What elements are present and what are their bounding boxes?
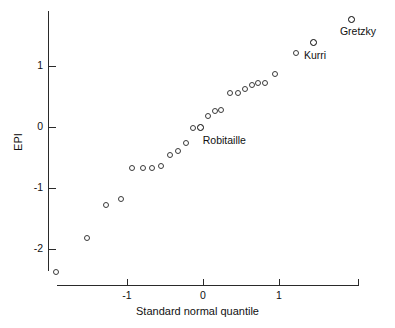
y-tick-mark (49, 66, 56, 67)
y-tick-label: -2 (21, 242, 43, 254)
data-point (140, 165, 146, 171)
x-tick-mark (203, 279, 204, 286)
data-point (205, 113, 211, 119)
data-point (183, 140, 189, 146)
data-point (84, 235, 90, 241)
point-label-robitaille: Robitaille (203, 134, 246, 146)
point-label-kurri: Kurri (304, 49, 326, 61)
y-tick-label: 1 (21, 59, 43, 71)
y-axis-line (48, 11, 49, 271)
data-point (235, 90, 241, 96)
y-tick-label: -1 (21, 181, 43, 193)
data-point-gretzky (348, 16, 355, 23)
x-tick-label: -1 (115, 289, 139, 301)
data-point (293, 50, 299, 56)
qq-plot-figure: -2-101 -101 GretzkyKurriRobitaille Stand… (0, 0, 395, 328)
data-point (118, 196, 124, 202)
x-tick-label: 1 (267, 289, 291, 301)
data-point (149, 165, 155, 171)
x-axis-title: Standard normal quantile (0, 305, 395, 317)
data-point (249, 82, 255, 88)
data-point-robitaille (197, 124, 204, 131)
data-point (103, 202, 109, 208)
y-tick-mark (49, 249, 56, 250)
x-axis-end-tick (358, 279, 359, 286)
data-point (272, 71, 278, 77)
data-point (158, 163, 164, 169)
data-point (190, 125, 196, 131)
data-point (175, 148, 181, 154)
data-point (167, 152, 173, 158)
y-tick-label: 0 (21, 120, 43, 132)
x-tick-mark (127, 279, 128, 286)
data-point (262, 80, 268, 86)
data-point-kurri (310, 39, 317, 46)
point-label-gretzky: Gretzky (340, 25, 376, 37)
data-point (255, 80, 261, 86)
x-tick-mark (279, 279, 280, 286)
data-point (129, 165, 135, 171)
y-tick-mark (49, 127, 56, 128)
y-tick-mark (49, 188, 56, 189)
data-point (53, 269, 59, 275)
data-point (227, 90, 233, 96)
x-tick-label: 0 (191, 289, 215, 301)
x-axis-line (57, 285, 359, 286)
data-point (218, 107, 224, 113)
data-point (242, 86, 248, 92)
y-axis-title: EPI (12, 115, 24, 169)
